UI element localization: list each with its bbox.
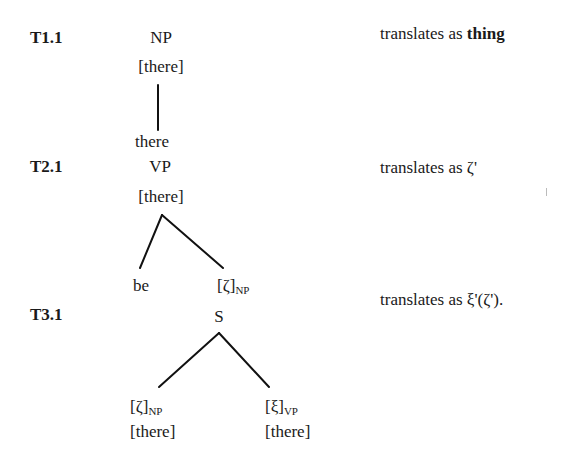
t3-branch-left: [159, 333, 219, 387]
t3-child-right-feature: [there]: [265, 422, 310, 442]
t1-root-node: NP: [150, 28, 172, 48]
t1-root-feature: [there]: [138, 57, 183, 77]
t3-child-xi-vp: [ξ]VP: [265, 397, 298, 417]
t1-translation-value: thing: [467, 24, 505, 43]
t3-branch-right: [219, 333, 269, 387]
rule-label-t3: T3.1: [30, 305, 63, 325]
t3-root-node: S: [214, 307, 223, 327]
t2-root-node: VP: [149, 157, 171, 177]
t1-translation: translates as thing: [380, 24, 505, 44]
scan-artifact: [546, 188, 547, 196]
t3-child-left-feature: [there]: [130, 422, 175, 442]
t2-translation: translates as ζ': [380, 158, 477, 178]
rule-label-t2: T2.1: [30, 157, 63, 177]
t3-translation: translates as ξ'(ζ').: [380, 290, 503, 310]
t2-branch-right: [162, 215, 223, 268]
rule-label-t1: T1.1: [30, 28, 63, 48]
t2-root-feature: [there]: [138, 187, 183, 207]
t2-leaf-be: be: [133, 276, 149, 296]
t2-leaf-zeta-np: [ζ]NP: [217, 276, 249, 296]
t3-translation-value: ξ'(ζ').: [467, 290, 503, 309]
t2-branch-left: [140, 215, 162, 268]
t1-leaf: there: [135, 132, 169, 152]
t3-child-zeta-np: [ζ]NP: [130, 397, 162, 417]
t2-translation-value: ζ': [467, 158, 477, 177]
